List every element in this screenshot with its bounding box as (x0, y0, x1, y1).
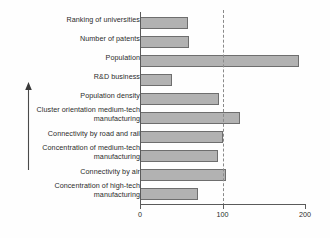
bar (140, 36, 189, 48)
category-label: Connectivity by air (0, 168, 140, 177)
bar (140, 55, 299, 67)
bar (140, 74, 172, 86)
category-label: Connectivity by road and rail (0, 130, 140, 139)
bar (140, 17, 188, 29)
x-tick-label: 0 (138, 210, 142, 219)
category-label: Population density (0, 92, 140, 101)
bar-chart: Ranking of universities Number of patent… (0, 0, 330, 238)
category-label: Concentration of medium-tech manufacturi… (0, 144, 140, 161)
category-label: Population (0, 54, 140, 63)
bar (140, 93, 219, 105)
y-axis-line (140, 12, 141, 205)
x-tick (305, 205, 306, 209)
bar (140, 131, 223, 143)
x-tick (140, 205, 141, 209)
reference-line-100 (223, 10, 224, 206)
category-label: Concentration of high-tech manufacturing (0, 182, 140, 199)
x-tick-label: 200 (299, 210, 311, 219)
category-label: R&D business (0, 73, 140, 82)
category-label: Cluster orientation medium-tech manufact… (0, 106, 140, 123)
bar (140, 150, 218, 162)
category-label: Number of patents (0, 35, 140, 44)
bar (140, 188, 198, 200)
x-tick-label: 100 (217, 210, 229, 219)
bar (140, 112, 240, 124)
x-tick (223, 205, 224, 209)
bar (140, 169, 226, 181)
category-label: Ranking of universities (0, 16, 140, 25)
